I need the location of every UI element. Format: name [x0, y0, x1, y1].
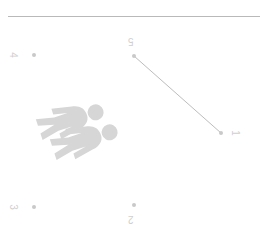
point-label-5: 5 — [128, 36, 134, 46]
point-marker-1[interactable] — [219, 131, 223, 135]
point-marker-5[interactable] — [132, 54, 136, 58]
top-horizontal-rule — [8, 16, 260, 17]
point-marker-2[interactable] — [132, 203, 136, 207]
point-label-1: 1 — [230, 130, 240, 136]
point-marker-3[interactable] — [32, 205, 36, 209]
point-label-3: 3 — [8, 204, 18, 210]
point-label-4: 4 — [8, 52, 18, 58]
point-marker-4[interactable] — [32, 53, 36, 57]
diagram-canvas: 5 4 3 2 1 — [0, 0, 260, 238]
point-label-2: 2 — [128, 214, 134, 224]
